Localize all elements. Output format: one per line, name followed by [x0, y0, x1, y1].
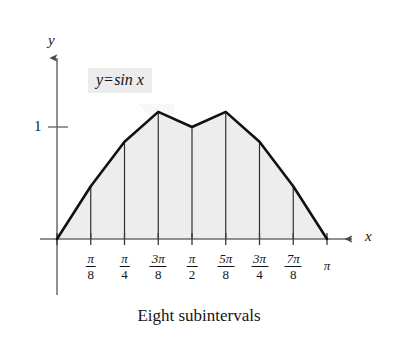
equation-operator: = — [103, 71, 114, 88]
fraction: 5π 8 — [217, 252, 234, 281]
x-tick-label-3pi-over-8: 3π 8 — [150, 252, 167, 281]
figure-caption: Eight subintervals — [0, 306, 398, 326]
x-tick-label-pi-over-8: π 8 — [85, 252, 96, 281]
x-tick-label-3pi-over-4: 3π 4 — [251, 252, 268, 281]
sine-trapezoid-figure: y=sin x y x 1 π 8 π 4 3π 8 π 2 5π 8 — [0, 0, 398, 341]
fraction: π 4 — [119, 252, 130, 281]
y-axis-label: y — [48, 32, 55, 49]
x-tick-label-pi-over-2: π 2 — [187, 252, 198, 281]
equation-rhs: sin x — [114, 71, 144, 88]
x-tick-label-pi-over-4: π 4 — [119, 252, 130, 281]
y-tick-label-1: 1 — [34, 118, 42, 135]
pi-symbol: π — [324, 252, 331, 272]
x-tick-label-pi: π — [324, 252, 331, 272]
x-axis-label: x — [365, 228, 372, 245]
equation-label: y=sin x — [88, 68, 152, 93]
fraction: π 8 — [85, 252, 96, 281]
fraction: 3π 8 — [150, 252, 167, 281]
plot-canvas — [0, 0, 398, 341]
x-tick-label-5pi-over-8: 5π 8 — [217, 252, 234, 281]
x-tick-label-7pi-over-8: 7π 8 — [285, 252, 302, 281]
fraction: 3π 4 — [251, 252, 268, 281]
fraction: 7π 8 — [285, 252, 302, 281]
fraction: π 2 — [187, 252, 198, 281]
